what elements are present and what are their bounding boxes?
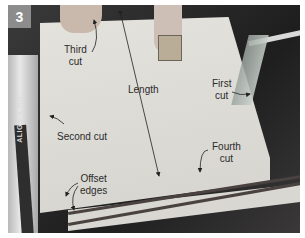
fourth-cut-arrow: [200, 150, 208, 172]
third-cut-arrow: [92, 20, 97, 52]
label-offset-edges: Offset edges: [80, 173, 107, 197]
label-second-cut: Second cut: [57, 131, 107, 143]
label-fourth-cut-line2: cut: [212, 153, 241, 165]
step-number-badge: 3: [8, 5, 31, 28]
label-fourth-cut-line1: Fourth: [212, 141, 241, 153]
first-cut-arrow: [232, 92, 250, 95]
offset-edges-arrow-1: [66, 183, 78, 196]
second-cut-arrow: [50, 116, 64, 124]
offset-edges-arrow-2: [73, 186, 78, 210]
label-length: Length: [128, 84, 159, 96]
label-third-cut: Third cut: [64, 44, 87, 68]
label-third-cut-line2: cut: [64, 56, 87, 68]
label-first-cut: First cut: [212, 78, 231, 102]
label-fourth-cut: Fourth cut: [212, 141, 241, 165]
label-offset-edges-line2: edges: [80, 185, 107, 197]
label-first-cut-line2: cut: [212, 90, 231, 102]
label-offset-edges-line1: Offset: [80, 173, 107, 185]
label-first-cut-line1: First: [212, 78, 231, 90]
label-third-cut-line1: Third: [64, 44, 87, 56]
annotation-arrows: [0, 0, 305, 238]
